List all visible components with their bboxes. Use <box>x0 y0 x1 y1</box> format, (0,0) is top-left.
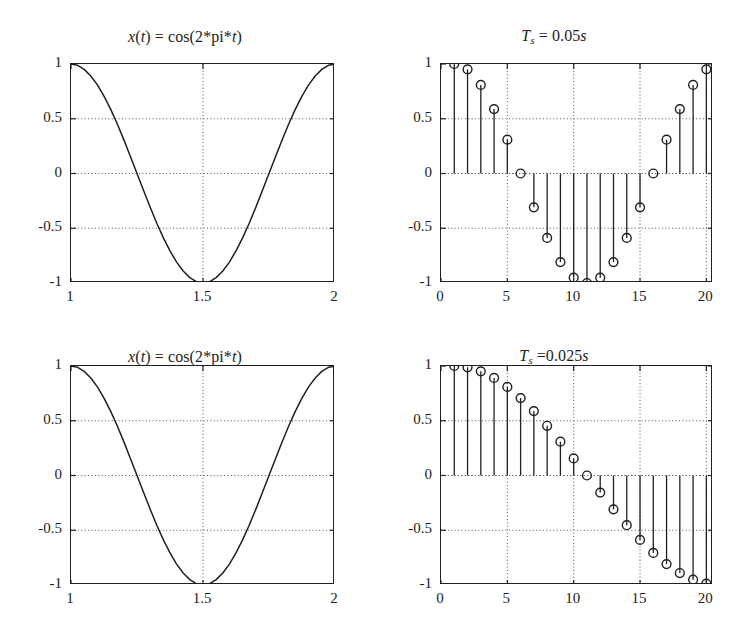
y-axis-tick-label: 0 <box>382 165 432 180</box>
x-axis-tick-label: 0 <box>410 591 470 606</box>
x-axis-tick-label: 5 <box>476 289 536 304</box>
y-axis-tick-label: -0.5 <box>12 521 62 536</box>
x-axis-tick-label: 20 <box>675 289 735 304</box>
y-axis-tick-label: -1 <box>12 274 62 289</box>
y-axis-tick-label: 1 <box>382 55 432 70</box>
panel-top-right: Ts = 0.05s -1-0.500.5105101520 <box>369 0 739 320</box>
y-axis-tick-label: -0.5 <box>12 219 62 234</box>
plot-area-top-right <box>440 63 712 282</box>
y-axis-tick-label: 1 <box>12 357 62 372</box>
figure-sampling-cosine: x(t) = cos(2*pi*t) -1-0.500.5111.52 Ts =… <box>0 0 739 640</box>
plot-area-bottom-left <box>70 365 334 584</box>
x-axis-tick-label: 15 <box>609 591 669 606</box>
x-axis-tick-label: 1 <box>40 289 100 304</box>
y-axis-tick-label: 0 <box>12 165 62 180</box>
plot-area-top-left <box>70 63 334 282</box>
y-axis-tick-label: 0.5 <box>382 110 432 125</box>
y-axis-tick-label: 0.5 <box>382 412 432 427</box>
y-axis-tick-label: -1 <box>382 576 432 591</box>
panel-bottom-right: Ts =0.025s -1-0.500.5105101520 <box>369 320 739 640</box>
y-axis-tick-label: 0 <box>382 467 432 482</box>
y-axis-tick-label: 0.5 <box>12 110 62 125</box>
plot-area-bottom-right <box>440 365 712 584</box>
x-axis-tick-label: 20 <box>675 591 735 606</box>
x-axis-tick-label: 2 <box>304 289 364 304</box>
x-axis-tick-label: 2 <box>304 591 364 606</box>
y-axis-tick-label: 0 <box>12 467 62 482</box>
panel-top-left-title: x(t) = cos(2*pi*t) <box>0 28 370 46</box>
x-axis-tick-label: 1 <box>40 591 100 606</box>
y-axis-tick-label: -0.5 <box>382 219 432 234</box>
x-axis-tick-label: 10 <box>543 289 603 304</box>
stem-marker <box>516 169 525 178</box>
x-axis-tick-label: 1.5 <box>172 289 232 304</box>
y-axis-tick-label: 1 <box>12 55 62 70</box>
y-axis-tick-label: 0.5 <box>12 412 62 427</box>
x-axis-tick-label: 1.5 <box>172 591 232 606</box>
y-axis-tick-label: -1 <box>12 576 62 591</box>
stem-marker <box>649 169 658 178</box>
x-axis-tick-label: 10 <box>543 591 603 606</box>
x-axis-tick-label: 0 <box>410 289 470 304</box>
y-axis-tick-label: -0.5 <box>382 521 432 536</box>
panel-top-right-title: Ts = 0.05s <box>369 27 739 49</box>
y-axis-tick-label: -1 <box>382 274 432 289</box>
panel-top-left: x(t) = cos(2*pi*t) -1-0.500.5111.52 <box>0 0 370 320</box>
x-axis-tick-label: 5 <box>476 591 536 606</box>
data-curve <box>71 366 333 583</box>
x-axis-tick-label: 15 <box>609 289 669 304</box>
panel-bottom-left: x(t) = cos(2*pi*t) -1-0.500.5111.52 <box>0 320 370 640</box>
y-axis-tick-label: 1 <box>382 357 432 372</box>
data-curve <box>71 64 333 281</box>
